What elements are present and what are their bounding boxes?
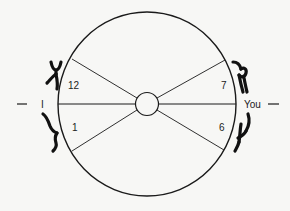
- spoke-lower-right: [157, 110, 224, 150]
- sector-label-1: 1: [72, 122, 78, 133]
- label-i: I: [41, 99, 44, 110]
- hand-glyph-lower-left-icon: [43, 114, 57, 151]
- sector-label-6: 6: [219, 122, 225, 133]
- hand-glyph-lower-right-icon: [235, 114, 249, 151]
- spoke-lower-left: [72, 110, 137, 151]
- center-circle: [136, 93, 159, 116]
- label-you: You: [244, 99, 261, 110]
- clock-diagram: I You 12 1 7 6: [0, 0, 290, 211]
- spoke-upper-left: [72, 59, 137, 98]
- spoke-upper-right: [157, 60, 225, 98]
- hand-glyph-upper-left-icon: [47, 62, 61, 89]
- sector-label-12: 12: [68, 80, 80, 91]
- sector-label-7: 7: [221, 80, 227, 91]
